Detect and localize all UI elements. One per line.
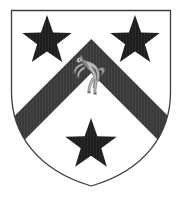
horse-hoof-rear — [87, 91, 90, 93]
coat-of-arms-image: Argent, a chevron sable between three mu… — [0, 0, 183, 204]
horse-hoof-front — [94, 93, 97, 95]
heraldic-shield-graphic — [0, 0, 183, 204]
horse-hoof-raised-lower — [76, 76, 79, 78]
horse-eye — [79, 59, 80, 60]
horse-hoof-raised — [73, 72, 76, 74]
